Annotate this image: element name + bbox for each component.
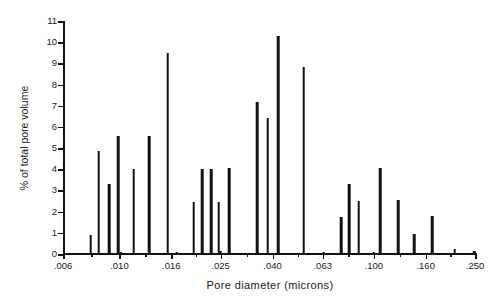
bar: [256, 102, 259, 255]
bar: [453, 249, 456, 254]
bar: [397, 200, 400, 254]
x-tick-mark-minor: [247, 253, 249, 257]
bar: [357, 201, 360, 254]
y-tick-label: 6: [52, 122, 57, 132]
x-tick-mark: [426, 253, 428, 259]
x-tick-label: .063: [313, 261, 332, 271]
x-tick-mark: [273, 253, 275, 259]
bar: [89, 235, 92, 254]
bar: [201, 169, 204, 254]
x-tick-label: .040: [263, 261, 282, 271]
y-tick-label: 5: [52, 143, 57, 153]
bar: [348, 184, 351, 254]
bar: [431, 216, 434, 254]
x-tick-label: .006: [54, 261, 73, 271]
x-tick-mark: [63, 253, 65, 259]
bar: [192, 202, 195, 254]
bar: [277, 36, 280, 254]
x-tick-mark: [374, 253, 376, 259]
x-tick-mark-minor: [196, 253, 198, 257]
bar: [413, 234, 416, 254]
x-tick-mark-minor: [348, 253, 350, 257]
x-tick-mark: [475, 253, 477, 259]
y-tick-label: 2: [52, 207, 57, 217]
x-tick-label: .010: [110, 261, 129, 271]
x-tick-mark-minor: [450, 253, 452, 257]
pore-size-distribution-chart: % of total pore volume 01234567891011 .0…: [0, 0, 491, 301]
y-tick-label: 4: [52, 165, 57, 175]
y-tick-label: 7: [52, 101, 57, 111]
y-tick-label: 11: [47, 16, 57, 26]
y-axis-title-wrapper: % of total pore volume: [0, 21, 28, 254]
x-tick-mark: [171, 253, 173, 259]
bar: [266, 118, 269, 254]
bar: [210, 169, 213, 254]
bar: [133, 169, 136, 254]
plot-area: [63, 21, 475, 254]
x-tick-mark-minor: [400, 253, 402, 257]
y-axis-title: % of total pore volume: [18, 38, 30, 238]
x-tick-mark: [119, 253, 121, 259]
x-tick-label: .016: [162, 261, 181, 271]
bar: [167, 53, 170, 254]
x-tick-label: .100: [365, 261, 384, 271]
x-tick-mark-minor: [298, 253, 300, 257]
x-tick-mark-minor: [145, 253, 147, 257]
bar: [175, 252, 178, 254]
x-tick-mark-minor: [91, 253, 93, 257]
x-tick-label: .025: [211, 261, 230, 271]
x-tick-mark: [323, 253, 325, 259]
bar: [218, 202, 221, 254]
y-tick-label: 9: [52, 59, 57, 69]
x-tick-label: .250: [466, 261, 485, 271]
y-tick-label: 10: [46, 37, 57, 47]
bar: [228, 168, 231, 254]
bar: [340, 217, 343, 254]
x-axis-title: Pore diameter (microns): [63, 279, 477, 291]
bar: [117, 136, 120, 254]
x-tick-label: .160: [416, 261, 435, 271]
bar: [148, 136, 151, 254]
x-tick-mark: [221, 253, 223, 259]
bar: [98, 151, 101, 254]
y-tick-label: 3: [52, 186, 57, 196]
bar: [379, 168, 382, 254]
y-tick-label: 1: [52, 228, 57, 238]
bar: [108, 184, 111, 254]
y-tick-label: 0: [52, 249, 57, 259]
bar: [302, 67, 305, 254]
y-tick-label: 8: [52, 80, 57, 90]
